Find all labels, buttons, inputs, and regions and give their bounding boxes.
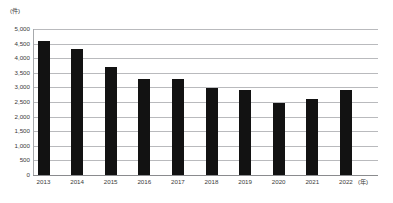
x-tick-label: 2021 bbox=[295, 178, 329, 186]
y-tick-label: 500 bbox=[2, 157, 30, 163]
bar-2019 bbox=[239, 29, 251, 175]
bar-rect bbox=[38, 41, 50, 175]
plot-area bbox=[33, 29, 378, 175]
bar-rect bbox=[71, 49, 83, 175]
x-tick-label: 2015 bbox=[94, 178, 128, 186]
bar-2020 bbox=[273, 29, 285, 175]
x-tick-label: 2019 bbox=[228, 178, 262, 186]
y-tick-label: 2,500 bbox=[2, 99, 30, 105]
y-tick-label: 4,500 bbox=[2, 41, 30, 47]
y-tick-label: 5,000 bbox=[2, 26, 30, 32]
bar-rect bbox=[239, 90, 251, 175]
bar-2017 bbox=[172, 29, 184, 175]
x-axis-tick-labels: 2013201420152016201720182019202020212022… bbox=[0, 178, 393, 194]
bar-rect bbox=[206, 88, 218, 175]
bar-2018 bbox=[206, 29, 218, 175]
x-axis-unit-label: (年) bbox=[358, 178, 368, 186]
x-tick-label: 2017 bbox=[161, 178, 195, 186]
bar-rect bbox=[340, 90, 352, 175]
y-tick-label: 1,500 bbox=[2, 128, 30, 134]
bar-2013 bbox=[38, 29, 50, 175]
x-tick-label: 2020 bbox=[262, 178, 296, 186]
y-tick-label: 2,000 bbox=[2, 114, 30, 120]
bar-rect bbox=[172, 79, 184, 175]
x-tick-label: 2013 bbox=[27, 178, 61, 186]
x-tick-label: 2014 bbox=[60, 178, 94, 186]
bar-chart: (件) 5,0004,5004,0003,5003,0002,5002,0001… bbox=[0, 0, 393, 203]
bar-2014 bbox=[71, 29, 83, 175]
bar-rect bbox=[138, 79, 150, 175]
bar-2021 bbox=[306, 29, 318, 175]
bar-2022 bbox=[340, 29, 352, 175]
y-tick-label: 3,000 bbox=[2, 84, 30, 90]
bar-rect bbox=[306, 99, 318, 176]
y-tick-label: 1,000 bbox=[2, 143, 30, 149]
axis-baseline bbox=[33, 175, 378, 176]
x-tick-label: 2018 bbox=[195, 178, 229, 186]
y-tick-label: 4,000 bbox=[2, 55, 30, 61]
bar-rect bbox=[105, 67, 117, 175]
bar-2016 bbox=[138, 29, 150, 175]
x-tick-label: 2016 bbox=[127, 178, 161, 186]
bar-2015 bbox=[105, 29, 117, 175]
bar-rect bbox=[273, 103, 285, 175]
y-tick-label: 3,500 bbox=[2, 70, 30, 76]
y-axis-tick-labels: 5,0004,5004,0003,5003,0002,5002,0001,500… bbox=[0, 0, 30, 203]
